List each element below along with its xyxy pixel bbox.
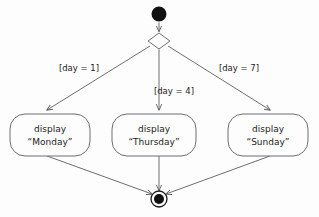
guard-label-day-1: [day = 1] (59, 63, 99, 73)
edge-monday-to-final (47, 156, 152, 194)
guard-label-day-4: [day = 4] (154, 86, 194, 96)
activity-label-sunday-line2: “Sunday” (246, 137, 289, 147)
activity-box-thursday[interactable] (112, 114, 196, 156)
initial-node[interactable] (152, 7, 167, 22)
activity-diagram-canvas: display “Monday” display “Thursday” disp… (0, 0, 319, 217)
activity-label-thursday-line1: display (138, 124, 171, 134)
edge-decision-to-monday (47, 46, 150, 110)
activity-label-monday-line1: display (34, 124, 67, 134)
edge-decision-to-sunday (168, 46, 270, 110)
activity-label-monday-line2: “Monday” (28, 137, 73, 147)
guard-label-day-7: [day = 7] (219, 63, 259, 73)
activity-diagram: display “Monday” display “Thursday” disp… (0, 0, 319, 217)
decision-node[interactable] (148, 33, 170, 49)
activity-label-sunday-line1: display (252, 124, 285, 134)
edge-sunday-to-final (166, 156, 270, 194)
activity-box-sunday[interactable] (228, 114, 308, 156)
activity-box-monday[interactable] (10, 114, 90, 156)
final-node-core[interactable] (154, 194, 164, 204)
activity-label-thursday-line2: “Thursday” (128, 137, 179, 147)
